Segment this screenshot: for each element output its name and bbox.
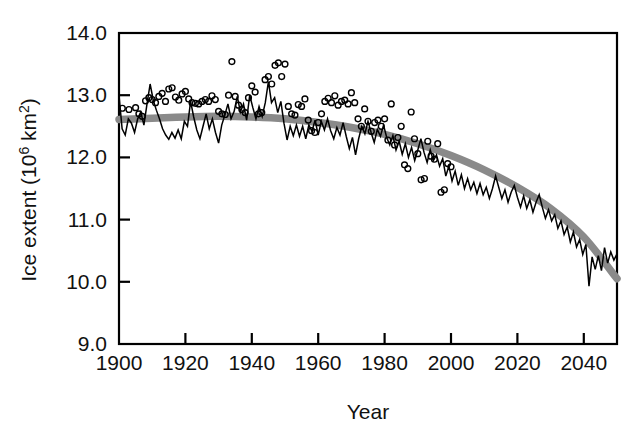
svg-text:Ice extent (106 km2): Ice extent (106 km2): [16, 98, 40, 282]
y-tick-label: 10.0: [66, 270, 107, 293]
chart-figure: 9.010.011.012.013.014.0 1900192019401960…: [0, 0, 642, 437]
x-tick-label: 2000: [428, 351, 475, 374]
x-tick-label: 1920: [162, 351, 209, 374]
y-axis-title: Ice extent (106 km2): [16, 98, 40, 282]
y-tick-label: 12.0: [66, 145, 107, 168]
y-tick-label: 11.0: [68, 208, 107, 231]
y-tick-label: 14.0: [66, 21, 107, 44]
x-tick-label: 1960: [295, 351, 342, 374]
y-axis-title-superscript-6: 6: [16, 147, 32, 155]
x-tick-label: 2040: [560, 351, 607, 374]
y-axis-title-prefix: Ice extent (10: [17, 155, 40, 282]
x-tick-label: 1900: [96, 351, 143, 374]
y-tick-label: 13.0: [66, 83, 107, 106]
x-tick-label: 2020: [494, 351, 541, 374]
x-tick-label: 1940: [228, 351, 275, 374]
ice-extent-chart: 9.010.011.012.013.014.0 1900192019401960…: [0, 0, 642, 437]
x-axis-title: Year: [347, 400, 389, 423]
y-axis-title-superscript-2: 2: [16, 105, 32, 113]
y-axis-title-close-paren: ): [17, 98, 40, 105]
y-axis-title-km: km: [17, 113, 40, 147]
x-tick-label: 1980: [361, 351, 408, 374]
